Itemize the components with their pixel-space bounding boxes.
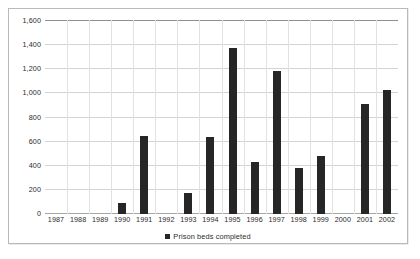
chart-legend: Prison beds completed (9, 233, 407, 240)
chart-frame: 1,6001,4001,2001,0008006004002000 198719… (8, 8, 408, 244)
category-separator (111, 20, 112, 214)
category-separator (288, 20, 289, 214)
bar-1994[interactable] (206, 137, 214, 214)
y-tick-label-600: 600 (29, 138, 41, 145)
category-separator (222, 20, 223, 214)
bar-1999[interactable] (317, 156, 325, 214)
y-tick-label-0: 0 (37, 210, 41, 217)
x-tick-label-1995: 1995 (222, 216, 244, 223)
x-tick-label-1991: 1991 (133, 216, 155, 223)
bar-1997[interactable] (273, 71, 281, 214)
category-separator (155, 20, 156, 214)
category-separator (89, 20, 90, 214)
y-tick-label-200: 200 (29, 186, 41, 193)
bar-1995[interactable] (229, 48, 237, 214)
x-tick-label-1998: 1998 (288, 216, 310, 223)
x-tick-label-1994: 1994 (199, 216, 221, 223)
category-separator (244, 20, 245, 214)
category-separator (266, 20, 267, 214)
plot-area (45, 20, 398, 214)
x-tick-label-1990: 1990 (111, 216, 133, 223)
category-separator (199, 20, 200, 214)
category-separator (376, 20, 377, 214)
category-separator (310, 20, 311, 214)
x-tick-label-1997: 1997 (266, 216, 288, 223)
x-axis-labels: 1987198819891990199119921993199419951996… (45, 216, 398, 228)
x-tick-label-2001: 2001 (354, 216, 376, 223)
y-tick-label-1200: 1,200 (23, 65, 42, 72)
y-axis-labels: 1,6001,4001,2001,0008006004002000 (9, 20, 41, 214)
category-separator (354, 20, 355, 214)
y-tick-label-800: 800 (29, 114, 41, 121)
y-tick-label-1400: 1,400 (23, 41, 42, 48)
x-tick-label-1989: 1989 (89, 216, 111, 223)
bar-1993[interactable] (184, 193, 192, 214)
category-separator (133, 20, 134, 214)
x-tick-label-1993: 1993 (177, 216, 199, 223)
y-tick-label-400: 400 (29, 162, 41, 169)
bar-2002[interactable] (383, 90, 391, 214)
x-tick-label-2002: 2002 (376, 216, 398, 223)
y-tick-label-1600: 1,600 (23, 17, 42, 24)
bar-1991[interactable] (140, 136, 148, 214)
y-tick-label-1000: 1,000 (23, 89, 42, 96)
x-tick-label-2000: 2000 (332, 216, 354, 223)
x-tick-label-1987: 1987 (45, 216, 67, 223)
bar-1998[interactable] (295, 168, 303, 214)
category-separator (332, 20, 333, 214)
category-separator (177, 20, 178, 214)
category-separator (67, 20, 68, 214)
x-tick-label-1999: 1999 (310, 216, 332, 223)
x-tick-label-1988: 1988 (67, 216, 89, 223)
legend-label-prison-beds: Prison beds completed (173, 233, 250, 240)
bar-2001[interactable] (361, 104, 369, 214)
legend-swatch-prison-beds (165, 234, 170, 239)
x-tick-label-1992: 1992 (155, 216, 177, 223)
bar-1990[interactable] (118, 203, 126, 214)
x-tick-label-1996: 1996 (244, 216, 266, 223)
bar-1996[interactable] (251, 162, 259, 214)
